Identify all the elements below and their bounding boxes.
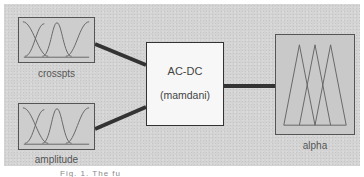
triangular-mf-icon xyxy=(276,35,354,134)
input-crosspts-label: crosspts xyxy=(18,68,95,79)
gaussian-mf-icon xyxy=(19,18,94,62)
output-alpha-block[interactable] xyxy=(275,34,355,135)
fis-system-block[interactable]: AC-DC (mamdani) xyxy=(146,42,224,126)
input-amplitude-label: amplitude xyxy=(18,154,95,165)
system-type: (mamdani) xyxy=(147,89,223,101)
output-alpha-label: alpha xyxy=(275,140,355,151)
figure-caption: Fig. 1. The fu xyxy=(60,169,121,177)
input-crosspts-block[interactable] xyxy=(18,17,95,63)
system-name: AC-DC xyxy=(147,65,223,77)
wire-amplitude-to-system xyxy=(95,107,146,129)
wire-crosspts-to-system xyxy=(95,44,146,65)
gaussian-mf-icon xyxy=(19,104,94,149)
input-amplitude-block[interactable] xyxy=(18,103,95,150)
